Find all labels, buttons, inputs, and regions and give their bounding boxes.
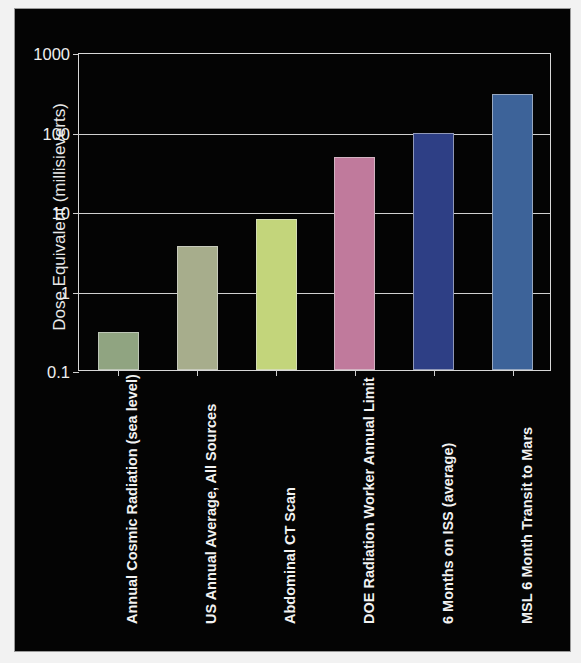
y-tick-label: 100 <box>42 124 70 143</box>
gridline <box>79 213 550 214</box>
bar <box>98 332 139 370</box>
x-tick-mark <box>118 370 119 376</box>
bar <box>256 219 297 370</box>
bar <box>177 246 218 370</box>
plot-area: 10001001010.1 <box>78 53 551 371</box>
x-tick-mark <box>434 370 435 376</box>
y-tick-label: 0.1 <box>47 363 70 382</box>
x-axis-category-label: US Annual Average, All Sources <box>203 404 219 624</box>
x-tick-mark <box>355 370 356 376</box>
x-tick-mark <box>276 370 277 376</box>
x-axis-category-label: 6 Months on ISS (average) <box>440 443 456 624</box>
x-axis-category-label: Annual Cosmic Radiation (sea level) <box>124 374 140 624</box>
y-tick-mark <box>73 134 79 135</box>
x-axis-category-label: MSL 6 Month Transit to Mars <box>519 427 535 624</box>
y-tick-mark <box>73 293 79 294</box>
x-axis-category-label: Abdominal CT Scan <box>282 487 298 624</box>
bar <box>492 94 533 370</box>
y-tick-label: 1000 <box>33 45 70 64</box>
y-tick-mark <box>73 54 79 55</box>
bar <box>334 157 375 370</box>
x-tick-mark <box>197 370 198 376</box>
bar <box>413 133 454 370</box>
x-axis-category-label: DOE Radiation Worker Annual Limit <box>361 377 377 624</box>
x-tick-mark <box>513 370 514 376</box>
y-tick-label: 1 <box>61 283 70 302</box>
chart-canvas: Dose Equivalent (millisieverts) 10001001… <box>15 9 570 651</box>
gridline <box>79 134 550 135</box>
figure: Dose Equivalent (millisieverts) 10001001… <box>0 0 581 663</box>
y-tick-mark <box>73 372 79 373</box>
gridline <box>79 293 550 294</box>
y-tick-label: 10 <box>52 204 70 223</box>
y-tick-mark <box>73 213 79 214</box>
